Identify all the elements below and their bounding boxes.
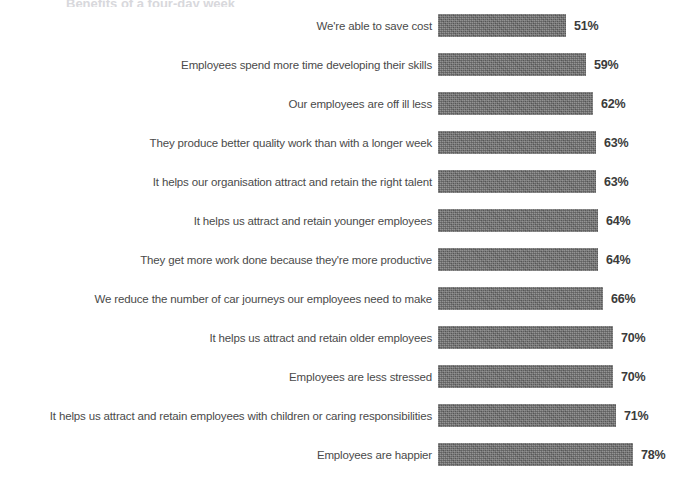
bar-row: Employees are less stressed70%: [0, 365, 686, 388]
bar-category-label: Our employees are off ill less: [288, 98, 432, 110]
bar-value-label: 71%: [624, 409, 648, 423]
bar-track: 62%: [438, 92, 686, 115]
horizontal-bar-chart: We're able to save cost51%Employees spen…: [0, 0, 686, 490]
bar-track: 70%: [438, 326, 686, 349]
bar-category-label: Employees spend more time developing the…: [181, 59, 432, 71]
bar-category-label: Employees are happier: [317, 449, 432, 461]
bar-row: They get more work done because they're …: [0, 248, 686, 271]
bar-value-label: 63%: [604, 175, 628, 189]
bar-value-label: 70%: [621, 370, 645, 384]
bar-value-label: 63%: [604, 136, 628, 150]
bar-track: 63%: [438, 170, 686, 193]
bar-row: It helps us attract and retain older emp…: [0, 326, 686, 349]
bar-category-label: They get more work done because they're …: [140, 254, 432, 266]
bar-track: 64%: [438, 248, 686, 271]
bar-value-label: 64%: [606, 214, 630, 228]
bar-fill: [438, 170, 596, 193]
bar-fill: [438, 287, 603, 310]
bar-row: Employees spend more time developing the…: [0, 53, 686, 76]
bar-value-label: 59%: [594, 58, 618, 72]
bar-track: 70%: [438, 365, 686, 388]
bar-track: 66%: [438, 287, 686, 310]
bar-fill: [438, 14, 566, 37]
bar-fill: [438, 365, 613, 388]
bar-track: 71%: [438, 404, 686, 427]
bar-row: Employees are happier78%: [0, 443, 686, 466]
bar-fill: [438, 209, 598, 232]
bar-value-label: 78%: [641, 448, 665, 462]
bar-category-label: It helps us attract and retain younger e…: [194, 215, 432, 227]
bar-value-label: 66%: [611, 292, 635, 306]
bar-fill: [438, 404, 616, 427]
bar-row: It helps us attract and retain younger e…: [0, 209, 686, 232]
bar-track: 64%: [438, 209, 686, 232]
bar-row: We reduce the number of car journeys our…: [0, 287, 686, 310]
bar-row: They produce better quality work than wi…: [0, 131, 686, 154]
bar-track: 51%: [438, 14, 686, 37]
bar-row: It helps our organisation attract and re…: [0, 170, 686, 193]
bar-fill: [438, 443, 633, 466]
bar-fill: [438, 326, 613, 349]
bar-row: It helps us attract and retain employees…: [0, 404, 686, 427]
bar-value-label: 62%: [601, 97, 625, 111]
bar-category-label: We reduce the number of car journeys our…: [95, 293, 432, 305]
bar-track: 59%: [438, 53, 686, 76]
bar-track: 78%: [438, 443, 686, 466]
bar-category-label: We're able to save cost: [316, 20, 432, 32]
bar-fill: [438, 53, 586, 76]
bar-value-label: 70%: [621, 331, 645, 345]
bar-value-label: 51%: [574, 19, 598, 33]
bar-value-label: 64%: [606, 253, 630, 267]
bar-category-label: It helps our organisation attract and re…: [153, 176, 432, 188]
bar-fill: [438, 92, 593, 115]
bar-category-label: It helps us attract and retain employees…: [50, 410, 432, 422]
bar-row: We're able to save cost51%: [0, 14, 686, 37]
bar-category-label: They produce better quality work than wi…: [150, 137, 432, 149]
bar-category-label: It helps us attract and retain older emp…: [209, 332, 432, 344]
bar-row: Our employees are off ill less62%: [0, 92, 686, 115]
bar-category-label: Employees are less stressed: [289, 371, 432, 383]
bar-fill: [438, 131, 596, 154]
bar-fill: [438, 248, 598, 271]
bar-track: 63%: [438, 131, 686, 154]
